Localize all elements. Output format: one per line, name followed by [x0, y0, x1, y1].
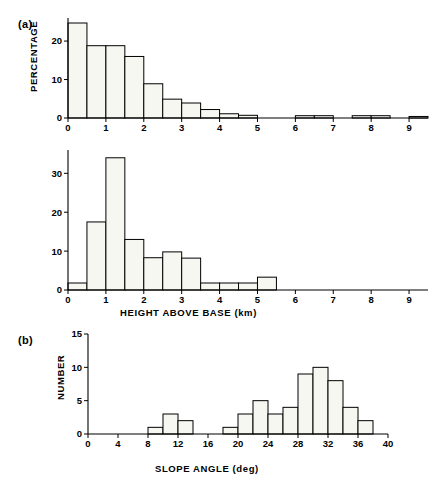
histogram-bar [106, 46, 125, 118]
x-axis-tick-label: 6 [293, 294, 298, 305]
histogram-bar [358, 421, 373, 434]
histogram-height-above-base-top: 012345678901020 [0, 10, 448, 155]
histogram-bar [201, 110, 220, 118]
histogram-bar [68, 23, 87, 118]
histogram-bar [182, 103, 201, 118]
x-axis-tick-label: 4 [217, 294, 223, 305]
y-axis-tick-label: 20 [51, 207, 62, 218]
x-axis-tick-label: 32 [323, 438, 334, 449]
histogram-bar [223, 427, 238, 434]
x-axis-title-height-above-base: HEIGHT ABOVE BASE (km) [120, 307, 257, 318]
histogram-bar [125, 56, 144, 118]
histogram-bar [253, 401, 268, 434]
histogram-bar [87, 46, 106, 118]
x-axis-tick-label: 2 [141, 122, 146, 133]
x-axis-tick-label: 3 [179, 294, 184, 305]
y-axis-tick-label: 0 [57, 112, 62, 123]
histogram-bar [106, 158, 125, 290]
x-axis-tick-label: 1 [103, 122, 109, 133]
y-axis-tick-label: 10 [51, 246, 62, 257]
histogram-bar [148, 427, 163, 434]
histogram-bar [144, 84, 163, 118]
x-axis-tick-label: 0 [85, 438, 90, 449]
x-axis-tick-label: 24 [263, 438, 274, 449]
x-axis-tick-label: 4 [115, 438, 121, 449]
y-axis-tick-label: 0 [57, 284, 62, 295]
histogram-bar [239, 283, 258, 290]
x-axis-tick-label: 28 [293, 438, 304, 449]
x-axis-tick-label: 9 [406, 294, 411, 305]
x-axis-tick-label: 9 [406, 122, 411, 133]
x-axis-tick-label: 0 [65, 294, 70, 305]
x-axis-tick-label: 4 [217, 122, 223, 133]
y-axis-tick-label: 10 [51, 74, 62, 85]
histogram-bar [268, 414, 283, 434]
y-axis-title-number: NUMBER [55, 355, 66, 400]
y-axis-tick-label: 30 [51, 168, 62, 179]
x-axis-tick-label: 8 [145, 438, 150, 449]
x-axis-tick-label: 8 [369, 294, 374, 305]
histogram-slope-angle: 0481216202428323640051015 [0, 326, 448, 484]
y-axis-tick-label: 15 [71, 328, 82, 339]
x-axis-tick-label: 16 [203, 438, 214, 449]
histogram-bar [220, 114, 239, 118]
x-axis-tick-label: 7 [331, 122, 336, 133]
x-axis-tick-label: 36 [353, 438, 364, 449]
histogram-bar [298, 374, 313, 434]
y-axis-tick-label: 0 [77, 428, 82, 439]
histogram-bar [178, 421, 193, 434]
histogram-bar [163, 252, 182, 290]
histogram-bar [68, 283, 87, 290]
y-axis-tick-label: 20 [51, 35, 62, 46]
histogram-bar [220, 283, 239, 290]
x-axis-tick-label: 20 [233, 438, 244, 449]
x-axis-title-slope-angle: SLOPE ANGLE (deg) [155, 463, 259, 474]
histogram-bar [87, 222, 106, 290]
figure-container: (a) (b) 012345678901020 0123456789010203… [0, 0, 448, 484]
x-axis-tick-label: 0 [65, 122, 70, 133]
histogram-bar [343, 407, 358, 434]
y-axis-title-percentage: PERCENTAGE [28, 21, 39, 92]
x-axis-tick-label: 6 [293, 122, 298, 133]
histogram-bar [163, 99, 182, 118]
histogram-height-above-base-middle: 01234567890102030 [0, 140, 448, 325]
histogram-bar [238, 414, 253, 434]
histogram-bar [313, 367, 328, 434]
histogram-bar [163, 414, 178, 434]
y-axis-tick-label: 10 [71, 362, 82, 373]
histogram-bar [328, 381, 343, 434]
x-axis-tick-label: 3 [179, 122, 184, 133]
x-axis-tick-label: 5 [255, 122, 261, 133]
histogram-bar [283, 407, 298, 434]
x-axis-tick-label: 8 [369, 122, 374, 133]
histogram-bar [201, 283, 220, 290]
histogram-bar [125, 239, 144, 290]
x-axis-tick-label: 7 [331, 294, 336, 305]
x-axis-tick-label: 5 [255, 294, 261, 305]
histogram-bar [182, 258, 201, 290]
x-axis-tick-label: 40 [383, 438, 394, 449]
x-axis-tick-label: 2 [141, 294, 146, 305]
x-axis-tick-label: 12 [173, 438, 184, 449]
histogram-bar [144, 258, 163, 290]
x-axis-tick-label: 1 [103, 294, 109, 305]
y-axis-tick-label: 5 [77, 395, 83, 406]
histogram-bar [257, 277, 276, 290]
